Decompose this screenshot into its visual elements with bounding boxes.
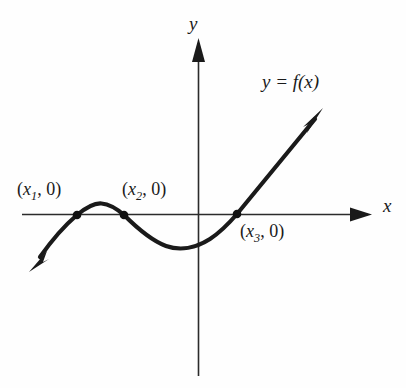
root-label-x1-variable: x: [23, 179, 31, 199]
y-axis-arrowhead: [192, 38, 205, 62]
root-label-x2-variable: x: [128, 179, 136, 199]
x-axis-label: x: [383, 196, 391, 215]
root-dot-x1: [73, 211, 82, 220]
root-label-x3-comma: ,: [260, 221, 269, 241]
function-graph-figure: (x1, 0) (x2, 0) (x3, 0) y = f(x) y x: [0, 0, 406, 388]
root-label-x2-close-paren: ): [160, 179, 166, 199]
root-label-x2-zero: 0: [151, 179, 160, 199]
curve-left-arrowhead: [29, 251, 49, 272]
root-label-x3-variable: x: [246, 221, 254, 241]
root-label-x1: (x1, 0): [17, 180, 61, 202]
y-axis-label: y: [189, 14, 197, 33]
function-label: y = f(x): [262, 72, 319, 91]
root-label-x1-close-paren: ): [55, 179, 61, 199]
root-label-x1-zero: 0: [46, 179, 55, 199]
root-label-x3-close-paren: ): [278, 221, 284, 241]
root-label-x2: (x2, 0): [122, 180, 166, 202]
root-dot-x3: [233, 210, 242, 219]
root-label-x3-zero: 0: [269, 221, 278, 241]
root-label-x3: (x3, 0): [240, 222, 284, 244]
x-axis-arrowhead: [350, 208, 372, 222]
root-label-x1-comma: ,: [37, 179, 46, 199]
root-dot-x2: [120, 211, 129, 220]
root-label-x2-comma: ,: [142, 179, 151, 199]
